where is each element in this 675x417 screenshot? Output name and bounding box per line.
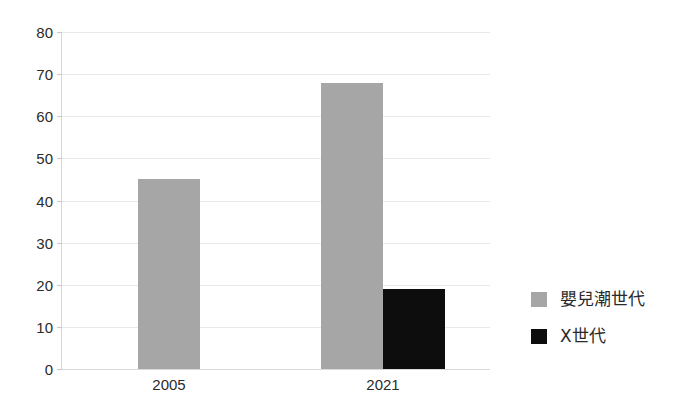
y-tick-label-80: 80	[11, 25, 53, 40]
gridline-0	[62, 369, 490, 370]
y-tick-label-50: 50	[11, 151, 53, 166]
gridline-80	[62, 32, 490, 33]
x-tick-label-2021: 2021	[323, 377, 443, 392]
tick-mark-30	[57, 243, 62, 244]
legend-label-1: 嬰兒潮世代	[560, 291, 645, 308]
legend-swatch-icon-1	[531, 292, 547, 307]
tick-mark-20	[57, 285, 62, 286]
gridline-20	[62, 285, 490, 286]
tick-mark-10	[57, 327, 62, 328]
y-tick-label-30: 30	[11, 235, 53, 250]
tick-mark-80	[57, 32, 62, 33]
y-axis-tick-labels: 01020304050607080	[5, 0, 53, 417]
legend-label-2: X世代	[560, 328, 606, 345]
chart-legend: 嬰兒潮世代X世代	[531, 281, 671, 355]
y-tick-label-40: 40	[11, 193, 53, 208]
y-tick-label-60: 60	[11, 109, 53, 124]
gridline-60	[62, 116, 490, 117]
tick-mark-70	[57, 74, 62, 75]
bar-2021-X世代[interactable]	[383, 289, 445, 369]
legend-swatch-icon-2	[531, 329, 547, 344]
bar-2005-嬰兒潮世代[interactable]	[138, 179, 200, 369]
y-tick-label-10: 10	[11, 319, 53, 334]
legend-item-1[interactable]: 嬰兒潮世代	[531, 281, 671, 318]
gridline-50	[62, 158, 490, 159]
x-tick-label-2005: 2005	[109, 377, 229, 392]
y-tick-label-70: 70	[11, 67, 53, 82]
y-tick-label-20: 20	[11, 277, 53, 292]
bar-chart: 01020304050607080 20052021 嬰兒潮世代X世代	[0, 0, 675, 417]
gridline-40	[62, 201, 490, 202]
bar-2021-嬰兒潮世代[interactable]	[321, 83, 383, 369]
legend-item-2[interactable]: X世代	[531, 318, 671, 355]
tick-mark-50	[57, 158, 62, 159]
gridline-70	[62, 74, 490, 75]
gridline-30	[62, 243, 490, 244]
tick-mark-60	[57, 116, 62, 117]
plot-area	[62, 32, 490, 369]
tick-mark-0	[57, 369, 62, 370]
tick-mark-40	[57, 201, 62, 202]
y-tick-label-0: 0	[11, 362, 53, 377]
